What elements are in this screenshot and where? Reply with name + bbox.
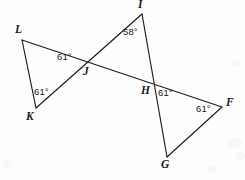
segment-L-F: [22, 40, 222, 107]
vertex-label-L: L: [15, 24, 22, 36]
angle-measure-F: 61°: [196, 104, 211, 114]
vertex-label-H: H: [141, 85, 150, 97]
segment-L-K: [22, 40, 36, 108]
vertex-label-I: I: [138, 0, 143, 11]
angle-measure-K: 61°: [34, 87, 49, 97]
segments-group: [22, 14, 222, 157]
vertex-label-F: F: [226, 97, 234, 109]
geometry-figure: LKJIHFG 61°61°58°61°61°: [0, 0, 245, 180]
vertex-label-J: J: [83, 66, 89, 78]
vertex-label-G: G: [161, 159, 170, 171]
segment-F-G: [167, 107, 222, 157]
angle-measure-I: 58°: [123, 27, 138, 37]
angle-measure-J: 61°: [57, 52, 72, 62]
angle-measure-H: 61°: [158, 88, 173, 98]
vertex-label-K: K: [26, 111, 34, 123]
